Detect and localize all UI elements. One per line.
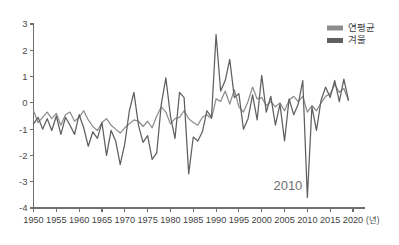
x-axis-tick-label: 1975 — [137, 215, 157, 225]
x-axis-tick-label: 1970 — [115, 215, 135, 225]
series-lines — [34, 35, 349, 198]
y-axis-tick-label: 2 — [22, 45, 27, 56]
y-axis-tick-label: -3 — [19, 176, 27, 187]
y-axis-tick-label: 1 — [22, 71, 27, 82]
y-axis-tick-label: -2 — [19, 150, 27, 161]
x-axis-tick-label: 1990 — [206, 215, 226, 225]
y-axis-tick-label: -4 — [19, 202, 27, 213]
legend-swatch — [327, 26, 343, 31]
x-axis-tick-label: 2020 — [343, 215, 363, 225]
x-axis-tick-label: 1950 — [23, 215, 43, 225]
x-axis: 1950195519601965197019751980198519901995… — [23, 208, 379, 225]
x-axis-tick-label: 1955 — [46, 215, 66, 225]
x-axis-tick-label: 1980 — [160, 215, 180, 225]
x-axis-tick-label: 2005 — [274, 215, 294, 225]
legend-label: 연평균 — [348, 22, 375, 33]
y-axis-tick-label: -1 — [19, 124, 27, 135]
y-axis-tick-label: 3 — [22, 18, 27, 29]
x-axis-tick-label: 2010 — [297, 215, 317, 225]
chart-container: 3210-1-2-3-4 195019551960196519701975198… — [0, 0, 399, 245]
x-axis-tick-label: 1985 — [183, 215, 203, 225]
y-axis: 3210-1-2-3-4 — [19, 18, 33, 213]
annotation-2010: 2010 — [273, 178, 302, 193]
legend-swatch — [327, 38, 343, 43]
chart-annotations: 2010 — [273, 178, 302, 193]
x-axis-tick-label: 2015 — [320, 215, 340, 225]
x-axis-tick-label: 1965 — [92, 215, 112, 225]
x-axis-unit-label: (년) — [366, 215, 380, 225]
chart-legend: 연평균겨울 — [327, 22, 375, 46]
x-axis-tick-label: 1995 — [229, 215, 249, 225]
legend-label: 겨울 — [348, 34, 366, 45]
x-axis-tick-label: 2000 — [251, 215, 271, 225]
y-axis-tick-label: 0 — [22, 97, 27, 108]
line-chart: 3210-1-2-3-4 195019551960196519701975198… — [0, 0, 399, 245]
x-axis-tick-label: 1960 — [69, 215, 89, 225]
